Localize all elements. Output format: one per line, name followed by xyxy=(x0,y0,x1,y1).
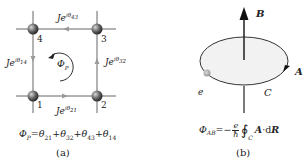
left-bond-arrow-icon xyxy=(31,56,36,62)
caption-b: (b) xyxy=(236,148,250,158)
right-bond-label: Jeiθ32 xyxy=(105,57,126,67)
left-bond-label: Jeiθ14 xyxy=(6,58,27,68)
caption-a: (a) xyxy=(56,148,70,158)
flux-arrow-icon xyxy=(48,53,55,59)
bottom-bond-label: Jeiθ21 xyxy=(56,106,77,116)
bottom-bond-arrow-icon xyxy=(62,94,68,99)
fraction: e ħ xyxy=(232,122,239,139)
node-3-label: 3 xyxy=(101,35,107,44)
charge-label: e xyxy=(198,88,203,97)
field-arrow-icon xyxy=(240,7,249,20)
charge-icon xyxy=(204,70,211,77)
node-4-icon xyxy=(28,24,39,35)
node-4-label: 4 xyxy=(37,35,43,44)
contour-label: C xyxy=(264,88,272,98)
vector-potential-label: A xyxy=(295,67,303,77)
ab-loop xyxy=(200,7,290,113)
node-2-label: 2 xyxy=(101,101,107,110)
flux-label: ΦP xyxy=(57,59,69,71)
ab-phase-formula: ΦAB =− e ħ ∮C A·dR xyxy=(199,119,279,141)
node-3-icon xyxy=(92,24,103,35)
top-bond-label: Jeiθ43 xyxy=(57,13,78,23)
node-1-label: 1 xyxy=(37,101,43,110)
field-label: B xyxy=(256,9,264,19)
right-bond-arrow-icon xyxy=(95,58,100,64)
plaquette-flux-formula: ΦP=θ21+θ32+θ43+θ14 xyxy=(19,129,116,141)
contour-integral-icon: ∮ xyxy=(241,123,248,137)
top-bond-arrow-icon xyxy=(63,27,69,32)
